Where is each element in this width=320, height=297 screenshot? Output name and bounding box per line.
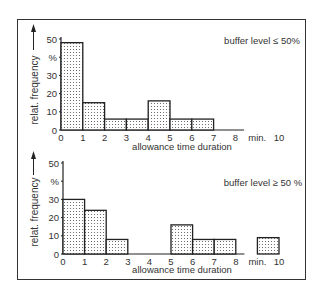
y-tick-label: 20: [48, 212, 59, 223]
y-tick-label: 0: [54, 249, 59, 260]
x-tick-label: 3: [125, 256, 130, 267]
histogram-bar: [170, 119, 192, 130]
histogram-bar: [85, 210, 107, 254]
bottom-histogram: buffer level ≥ 50 % relat. frequency all…: [29, 151, 303, 275]
x-tick-label: 0: [58, 132, 63, 143]
y-axis-label: relat. frequency: [29, 56, 40, 125]
y-tick-label: 10: [48, 230, 59, 241]
y-tick-label: 30: [46, 70, 57, 81]
x-tick-label: 6: [190, 256, 195, 267]
y-tick-label: 30: [48, 194, 59, 205]
histogram-bar: [192, 119, 214, 130]
x-tick-label: 2: [104, 256, 109, 267]
histogram-bar: [105, 119, 127, 130]
histogram-figure: buffer level ≤ 50% relat. frequency allo…: [0, 0, 320, 297]
x-tick-label: 4: [146, 132, 151, 143]
x-tick-label: 10: [274, 132, 285, 143]
top-histogram: buffer level ≤ 50% relat. frequency allo…: [29, 24, 300, 152]
y-tick-label: %: [49, 52, 58, 63]
histogram-bar: [83, 103, 105, 130]
y-tick-label: 10: [46, 106, 57, 117]
x-tick-label: 4: [147, 256, 152, 267]
x-tick-label: 2: [102, 132, 107, 143]
x-tick-label: 6: [189, 132, 194, 143]
histogram-bar: [171, 225, 193, 254]
histogram-bar: [106, 239, 128, 254]
x-tick-label: 8: [233, 256, 238, 267]
y-tick-label: 50: [48, 158, 59, 169]
x-tick-label: 5: [168, 256, 173, 267]
chart-title: buffer level ≤ 50%: [224, 35, 300, 46]
histogram-bar: [126, 119, 148, 130]
histogram-bar: [61, 43, 83, 130]
x-tick-label: 5: [167, 132, 172, 143]
x-tick-label: 0: [60, 256, 65, 267]
y-tick-label: 20: [46, 88, 57, 99]
x-tick-label: 3: [124, 132, 129, 143]
x-tick-label: 1: [80, 132, 85, 143]
y-tick-label: %: [51, 176, 60, 187]
x-tick-label: 7: [212, 256, 217, 267]
x-tick-label: min.: [248, 256, 266, 267]
y-tick-label: 0: [52, 125, 57, 136]
chart-title: buffer level ≥ 50 %: [224, 177, 303, 188]
histogram-bar: [257, 238, 279, 254]
y-tick-label: 50: [46, 34, 57, 45]
x-tick-label: 10: [274, 256, 285, 267]
x-tick-label: 8: [233, 132, 238, 143]
histogram-bar: [63, 199, 85, 254]
histogram-bar: [193, 239, 215, 254]
y-axis-label: relat. frequency: [29, 178, 40, 247]
up-arrow-icon: [31, 24, 36, 50]
up-arrow-icon: [31, 151, 36, 175]
x-tick-label: min.: [248, 132, 266, 143]
x-tick-label: 7: [211, 132, 216, 143]
histogram-bar: [148, 101, 170, 130]
x-tick-label: 1: [82, 256, 87, 267]
histogram-bar: [214, 239, 236, 254]
